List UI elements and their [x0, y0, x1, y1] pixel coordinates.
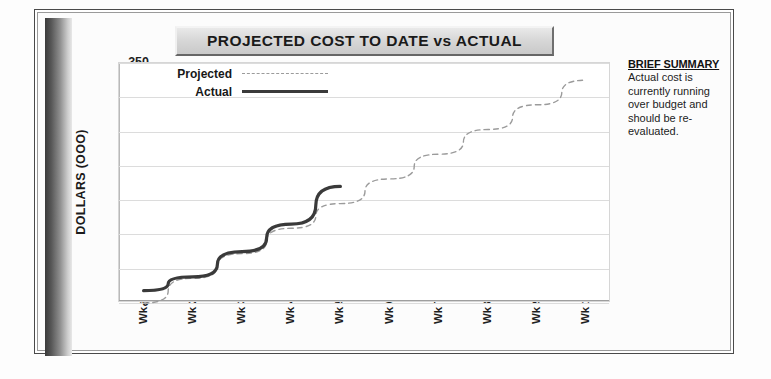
- x-tick-label: Wk 8: [481, 308, 497, 320]
- legend-item-projected: Projected: [150, 66, 340, 81]
- series-line-actual: [144, 186, 341, 290]
- x-tick-label: Wk 10: [579, 308, 595, 320]
- chart-legend: Projected Actual: [150, 66, 340, 102]
- legend-label-projected: Projected: [150, 67, 242, 81]
- x-tick-label: Wk 3: [235, 308, 251, 320]
- legend-label-actual: Actual: [150, 85, 242, 99]
- x-tick-label: Wk 7: [432, 308, 448, 320]
- x-tick-label: Wk 4: [284, 308, 300, 320]
- grid-line: [119, 303, 609, 304]
- x-tick-label: Wk 9: [530, 308, 546, 320]
- legend-swatch-actual-solid: [242, 90, 328, 93]
- series-line-projected: [144, 80, 587, 303]
- summary-body: Actual cost is currently running over bu…: [628, 71, 732, 139]
- x-tick-label: Wk 1: [137, 308, 153, 320]
- brief-summary-panel: BRIEF SUMMARY Actual cost is currently r…: [628, 58, 732, 139]
- y-axis-label: DOLLARS (OOO): [74, 97, 88, 267]
- summary-heading: BRIEF SUMMARY: [628, 58, 732, 70]
- legend-item-actual: Actual: [150, 84, 340, 99]
- chart-title-plate: PROJECTED COST TO DATE vs ACTUAL: [175, 26, 554, 56]
- chart-page: PROJECTED COST TO DATE vs ACTUAL DOLLARS…: [0, 0, 771, 379]
- x-tick-label: Wk 5: [333, 308, 349, 320]
- legend-swatch-projected-dashed: [242, 73, 328, 74]
- x-tick-label: Wk 6: [383, 308, 399, 320]
- page-title: PROJECTED COST TO DATE vs ACTUAL: [207, 32, 522, 50]
- x-tick-label: Wk 2: [186, 308, 202, 320]
- y-axis-label-wrap: DOLLARS (OOO): [60, 62, 82, 302]
